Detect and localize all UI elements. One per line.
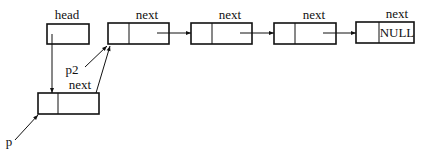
head-node: head bbox=[47, 7, 89, 44]
new-node-next-label: next bbox=[69, 77, 92, 92]
linked-list-diagram: head next next next next NULL next p2 bbox=[0, 0, 423, 156]
list-node-2: next bbox=[191, 7, 252, 44]
head-label: head bbox=[55, 7, 80, 22]
new-node-next-arrow bbox=[96, 46, 110, 93]
node4-next-label: next bbox=[386, 6, 409, 21]
new-node-box bbox=[38, 93, 99, 114]
new-node: next bbox=[38, 77, 99, 114]
list-node-3: next bbox=[274, 7, 336, 44]
node3-next-label: next bbox=[303, 7, 326, 22]
head-box bbox=[47, 24, 89, 44]
null-value: NULL bbox=[380, 25, 415, 40]
p-pointer-arrow bbox=[15, 115, 38, 140]
list-node-1: next bbox=[108, 7, 169, 44]
node1-next-label: next bbox=[136, 7, 159, 22]
p2-label: p2 bbox=[66, 62, 79, 77]
list-node-4: next NULL bbox=[356, 6, 414, 43]
node2-next-label: next bbox=[219, 7, 242, 22]
p2-pointer-arrow bbox=[85, 46, 107, 67]
p-label: p bbox=[6, 134, 13, 149]
